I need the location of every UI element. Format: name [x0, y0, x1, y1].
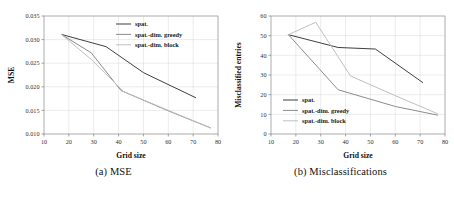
legend-label: spat.-dim. greedy	[135, 31, 183, 38]
x-tick-label: 50	[140, 138, 146, 145]
x-tick-label: 30	[91, 138, 97, 145]
x-axis-title: Grid size	[116, 151, 146, 160]
y-tick-label: 0.015	[26, 107, 40, 114]
x-tick-label: 20	[293, 138, 299, 145]
y-tick-label: 0	[263, 130, 266, 137]
legend-label: spat.-dim. block	[302, 117, 346, 124]
legend-label: spat.	[135, 20, 148, 27]
y-tick-label: 0.010	[26, 130, 40, 137]
misclassifications-caption: (b) Misclassifications	[227, 166, 454, 177]
y-tick-label: 30	[260, 71, 266, 78]
x-tick-label: 40	[342, 138, 348, 145]
x-tick-label: 20	[66, 138, 72, 145]
y-tick-label: 50	[260, 32, 266, 39]
x-tick-label: 40	[115, 138, 121, 145]
x-tick-label: 10	[268, 138, 274, 145]
y-tick-label: 40	[260, 52, 266, 59]
misclassifications-panel: 01020304050601020304050607080Grid sizeMi…	[227, 0, 454, 197]
x-tick-label: 80	[442, 138, 448, 145]
legend-label: spat.	[302, 96, 315, 103]
x-tick-label: 10	[41, 138, 47, 145]
y-tick-label: 0.020	[26, 83, 40, 90]
figure-container: 0.0100.0150.0200.0250.0300.0351020304050…	[0, 0, 454, 197]
x-tick-label: 60	[392, 138, 398, 145]
series-line	[61, 34, 210, 127]
y-tick-label: 10	[260, 111, 266, 118]
misclassifications-plot-area: 01020304050601020304050607080Grid sizeMi…	[227, 0, 454, 166]
x-tick-label: 30	[318, 138, 324, 145]
y-tick-label: 0.025	[26, 59, 40, 66]
y-tick-label: 0.035	[26, 12, 40, 19]
mse-plot-area: 0.0100.0150.0200.0250.0300.0351020304050…	[0, 0, 227, 166]
x-axis-title: Grid size	[343, 151, 373, 160]
y-tick-label: 0.030	[26, 36, 40, 43]
y-axis-title: MSE	[7, 67, 16, 83]
legend-label: spat.-dim. block	[135, 41, 179, 48]
mse-panel: 0.0100.0150.0200.0250.0300.0351020304050…	[0, 0, 227, 197]
legend-label: spat.-dim. greedy	[302, 107, 350, 114]
y-tick-label: 20	[260, 91, 266, 98]
x-tick-label: 80	[215, 138, 221, 145]
mse-caption: (a) MSE	[0, 166, 227, 177]
mse-chart-svg: 0.0100.0150.0200.0250.0300.0351020304050…	[0, 0, 227, 166]
series-line	[288, 35, 422, 83]
y-tick-label: 60	[260, 12, 266, 19]
misclassifications-chart-svg: 01020304050601020304050607080Grid sizeMi…	[227, 0, 454, 166]
x-tick-label: 70	[190, 138, 196, 145]
x-tick-label: 50	[367, 138, 373, 145]
y-axis-title: Misclassified entries	[234, 42, 243, 108]
x-tick-label: 70	[417, 138, 423, 145]
x-tick-label: 60	[165, 138, 171, 145]
